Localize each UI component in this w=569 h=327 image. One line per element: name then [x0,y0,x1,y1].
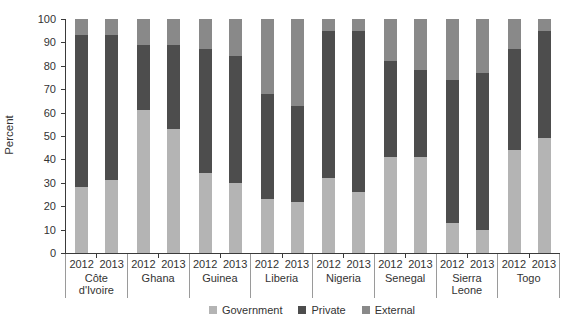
year-label: 2013 [346,258,370,270]
bar-group [128,19,190,253]
segment-private [105,35,118,180]
bar-group [498,19,560,253]
y-axis-tick-label: 50 [28,130,56,143]
year-label: 2012 [193,258,217,270]
country-label: Senegal [375,272,436,284]
country-label: Ghana [128,272,189,284]
bar-2013 [476,19,489,253]
legend-item: Private [298,304,345,316]
mid-tick [158,254,159,258]
mid-tick [343,254,344,258]
bar-2012 [322,19,335,253]
bar-group [437,19,499,253]
segment-private [137,45,150,111]
bar-2013 [538,19,551,253]
segment-government [508,150,521,253]
y-axis-tick-mark [61,113,65,114]
x-axis-group: 20122013Côte d'Ivoire [66,254,128,298]
bar-2012 [75,19,88,253]
country-label: Guinea [190,272,251,284]
year-label: 2013 [470,258,494,270]
legend-label: Government [222,304,283,316]
legend-label: Private [311,304,345,316]
segment-external [291,19,304,106]
segment-external [137,19,150,45]
y-axis-title: Percent [3,103,15,167]
segment-external [322,19,335,31]
y-axis-tick-mark [61,183,65,184]
year-label: 2013 [161,258,185,270]
segment-private [352,31,365,192]
x-axis-group: 20122013Nigeria [313,254,375,298]
stacked-bar-chart: Percent 0102030405060708090100 20122013C… [0,0,569,327]
bar-2013 [291,19,304,253]
segment-private [446,80,459,223]
bar-2013 [105,19,118,253]
segment-external [229,19,242,56]
segment-external [538,19,551,31]
y-axis-tick-mark [61,159,65,160]
y-axis-tick-label: 40 [28,153,56,166]
legend-swatch-private [298,306,306,314]
bar-2012 [446,19,459,253]
country-label: Liberia [251,272,312,284]
segment-government [446,223,459,253]
segment-government [229,183,242,253]
segment-external [384,19,397,61]
segment-government [75,187,88,253]
year-label: 2012 [502,258,526,270]
mid-tick [529,254,530,258]
bar-2013 [229,19,242,253]
segment-government [137,110,150,253]
y-axis-tick-label: 90 [28,36,56,49]
segment-private [229,56,242,182]
bar-group [190,19,252,253]
segment-external [414,19,427,70]
year-label: 2012 [440,258,464,270]
segment-external [261,19,274,94]
country-label: Togo [498,272,559,284]
year-label: 2013 [532,258,556,270]
mid-tick [282,254,283,258]
y-axis-tick-label: 100 [28,13,56,26]
segment-external [199,19,212,49]
bar-2012 [137,19,150,253]
segment-government [291,202,304,253]
segment-government [538,138,551,253]
segment-government [476,230,489,253]
y-axis-tick-label: 20 [28,200,56,213]
x-axis: 20122013Côte d'Ivoire20122013Ghana201220… [65,254,560,298]
y-axis-tick-label: 70 [28,83,56,96]
year-label: 2013 [99,258,123,270]
country-label: Nigeria [313,272,374,284]
country-label: Sierra Leone [437,272,498,296]
segment-external [352,19,365,31]
x-axis-group: 20122013Togo [498,254,560,298]
bar-2012 [508,19,521,253]
segment-external [508,19,521,49]
y-axis-tick-mark [61,136,65,137]
x-axis-group: 20122013Guinea [190,254,252,298]
mid-tick [467,254,468,258]
year-label: 2013 [285,258,309,270]
segment-government [414,157,427,253]
segment-private [261,94,274,199]
y-axis-tick-mark [61,19,65,20]
segment-private [75,35,88,187]
legend-swatch-external [362,306,370,314]
y-axis-tick-label: 0 [28,247,56,260]
y-axis-tick-mark [61,42,65,43]
x-axis-group: 20122013Sierra Leone [437,254,499,298]
legend: GovernmentPrivateExternal [65,304,559,316]
bar-group [313,19,375,253]
mid-tick [96,254,97,258]
legend-label: External [375,304,415,316]
y-axis-tick-label: 10 [28,224,56,237]
segment-government [384,157,397,253]
x-axis-group: 20122013Liberia [251,254,313,298]
segment-private [167,45,180,129]
y-axis-tick-mark [61,230,65,231]
mid-tick [405,254,406,258]
segment-government [352,192,365,253]
year-label: 2012 [131,258,155,270]
